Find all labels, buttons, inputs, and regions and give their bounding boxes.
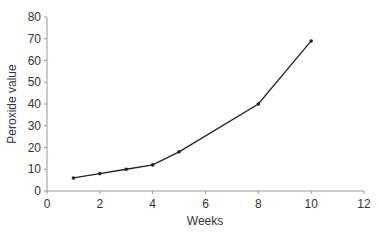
y-tick-label: 10 xyxy=(28,162,42,176)
data-point-marker xyxy=(257,102,261,106)
data-series xyxy=(72,39,313,180)
axes xyxy=(47,17,364,191)
data-point-marker xyxy=(177,150,181,154)
x-tick-label: 4 xyxy=(149,197,156,211)
data-point-marker xyxy=(151,163,155,167)
line-chart: 01020304050607080 024681012 Weeks Peroxi… xyxy=(0,0,381,237)
y-axis-ticks: 01020304050607080 xyxy=(28,10,47,198)
data-point-marker xyxy=(98,172,102,176)
x-tick-label: 10 xyxy=(304,197,318,211)
y-axis-title: Peroxide value xyxy=(5,64,19,144)
x-tick-label: 6 xyxy=(202,197,209,211)
y-tick-label: 60 xyxy=(28,54,42,68)
series-line xyxy=(73,41,311,178)
data-point-marker xyxy=(124,167,128,171)
x-tick-label: 0 xyxy=(44,197,51,211)
x-tick-label: 2 xyxy=(96,197,103,211)
y-tick-label: 80 xyxy=(28,10,42,24)
y-tick-label: 40 xyxy=(28,97,42,111)
x-axis-title: Weeks xyxy=(187,214,223,228)
x-tick-label: 8 xyxy=(255,197,262,211)
y-tick-label: 50 xyxy=(28,75,42,89)
data-point-marker xyxy=(309,39,313,43)
y-tick-label: 0 xyxy=(34,184,41,198)
y-tick-label: 30 xyxy=(28,119,42,133)
x-tick-label: 12 xyxy=(357,197,371,211)
y-tick-label: 20 xyxy=(28,141,42,155)
data-point-marker xyxy=(72,176,76,180)
x-axis-ticks: 024681012 xyxy=(44,191,371,211)
y-tick-label: 70 xyxy=(28,32,42,46)
